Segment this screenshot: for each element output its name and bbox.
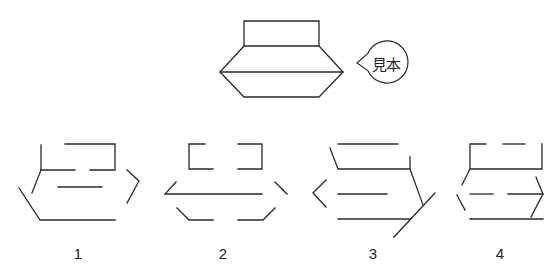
- option-line-segment: [19, 188, 115, 220]
- option-label-1[interactable]: 1: [74, 245, 82, 262]
- option-line-segment: [165, 182, 262, 194]
- option-line-segment: [275, 182, 287, 194]
- option-line-segment: [410, 157, 423, 205]
- sample-label: 見本: [372, 53, 400, 74]
- option-line-segment: [394, 193, 435, 237]
- option-line-segment: [65, 144, 115, 170]
- option-line-segment: [330, 148, 410, 169]
- option-label-3[interactable]: 3: [369, 245, 377, 262]
- option-figure-1[interactable]: [19, 144, 139, 220]
- option-label-4[interactable]: 4: [496, 245, 504, 262]
- sample-line-segment: [244, 21, 319, 46]
- option-line-segment: [238, 144, 262, 169]
- option-line-segment: [457, 195, 465, 210]
- option-line-segment: [313, 180, 326, 207]
- option-figure-4[interactable]: [457, 144, 543, 219]
- sample-figure: [220, 21, 343, 97]
- figure-canvas: [0, 0, 559, 274]
- option-figure-2[interactable]: [165, 144, 287, 220]
- option-line-segment: [531, 177, 543, 217]
- option-figure-3[interactable]: [313, 144, 435, 237]
- option-label-2[interactable]: 2: [219, 245, 227, 262]
- option-line-segment: [177, 208, 213, 220]
- option-line-segment: [32, 170, 41, 193]
- option-line-segment: [470, 144, 542, 169]
- option-line-segment: [238, 208, 275, 220]
- option-line-segment: [189, 144, 213, 169]
- option-line-segment: [127, 170, 139, 203]
- option-line-segment: [462, 169, 470, 185]
